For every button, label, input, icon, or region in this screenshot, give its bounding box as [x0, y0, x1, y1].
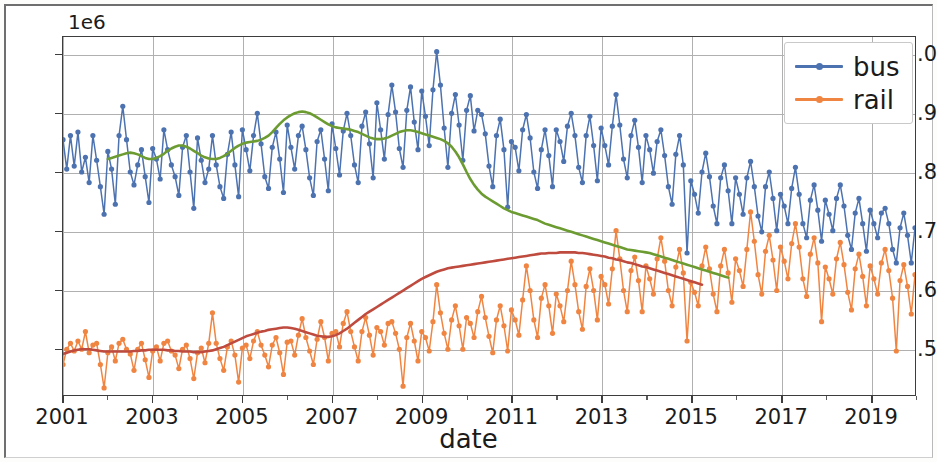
series-marker-rail [879, 260, 884, 265]
series-marker-rail [856, 252, 861, 257]
y-tick-mark [55, 231, 62, 233]
series-marker-rail [490, 350, 495, 355]
series-marker-bus [150, 146, 155, 151]
series-marker-bus [666, 184, 671, 189]
series-marker-rail [445, 347, 450, 352]
series-marker-rail [752, 239, 757, 244]
series-marker-rail [247, 356, 252, 361]
x-tick-mark [152, 396, 154, 403]
series-marker-rail [374, 325, 379, 330]
y-tick-mark [55, 54, 62, 56]
series-marker-bus [539, 147, 544, 152]
series-marker-bus [643, 133, 648, 138]
series-marker-rail [819, 319, 824, 324]
series-marker-bus [610, 124, 615, 129]
series-marker-rail [550, 331, 555, 336]
series-marker-rail [789, 241, 794, 246]
series-marker-bus [244, 147, 249, 152]
series-marker-rail [602, 282, 607, 287]
series-marker-rail [423, 335, 428, 340]
series-marker-bus [599, 125, 604, 130]
series-marker-rail [244, 343, 249, 348]
series-marker-rail [823, 264, 828, 269]
series-marker-rail [412, 338, 417, 343]
series-marker-rail [442, 331, 447, 336]
series-marker-rail [277, 350, 282, 355]
series-marker-rail [315, 337, 320, 342]
series-marker-bus [897, 225, 902, 230]
x-tick-mark [422, 396, 424, 403]
series-marker-bus [266, 186, 271, 191]
series-marker-rail [886, 268, 891, 273]
series-marker-bus [371, 175, 376, 180]
series-marker-rail [116, 341, 121, 346]
series-marker-bus [748, 159, 753, 164]
series-marker-rail [741, 284, 746, 289]
series-marker-rail [670, 303, 675, 308]
x-tick-mark [781, 396, 783, 403]
series-marker-rail [236, 380, 241, 385]
series-marker-bus [554, 127, 559, 132]
series-marker-rail [217, 356, 222, 361]
series-marker-bus [841, 203, 846, 208]
series-marker-rail [516, 333, 521, 338]
series-marker-rail [400, 384, 405, 389]
series-marker-bus [718, 175, 723, 180]
x-tick-mark [601, 396, 603, 403]
series-marker-rail [684, 338, 689, 343]
series-marker-bus [494, 133, 499, 138]
series-marker-bus [393, 110, 398, 115]
legend-swatch-bus [795, 60, 843, 74]
series-marker-rail [651, 291, 656, 296]
series-marker-bus [782, 203, 787, 208]
series-marker-bus [457, 122, 462, 127]
x-tick-mark-minor [377, 396, 378, 400]
series-marker-bus [490, 184, 495, 189]
series-marker-rail [561, 319, 566, 324]
series-marker-rail [460, 347, 465, 352]
series-marker-rail [774, 288, 779, 293]
series-marker-bus [288, 145, 293, 150]
series-marker-bus [662, 153, 667, 158]
series-marker-bus [68, 133, 73, 138]
series-marker-rail [326, 358, 331, 363]
y-tick-mark [55, 113, 62, 115]
series-marker-bus [307, 175, 312, 180]
series-marker-bus [270, 145, 275, 150]
trend-line-bus_trend [108, 112, 728, 278]
series-marker-rail [94, 341, 99, 346]
series-marker-bus [404, 108, 409, 113]
series-marker-rail [584, 284, 589, 289]
series-marker-bus [64, 166, 69, 171]
series-marker-bus [673, 152, 678, 157]
series-marker-bus [819, 239, 824, 244]
series-marker-bus [561, 159, 566, 164]
series-marker-bus [729, 221, 734, 226]
series-marker-bus [830, 228, 835, 233]
series-marker-bus [658, 127, 663, 132]
series-rail [62, 209, 916, 390]
series-marker-rail [703, 245, 708, 250]
series-marker-bus [356, 180, 361, 185]
series-marker-bus [158, 176, 163, 181]
series-marker-rail [860, 274, 865, 279]
series-marker-rail [486, 334, 491, 339]
series-marker-rail [812, 235, 817, 240]
series-marker-bus [214, 162, 219, 167]
series-marker-bus [367, 141, 372, 146]
series-marker-bus [333, 146, 338, 151]
series-marker-rail [296, 333, 301, 338]
series-marker-rail [576, 309, 581, 314]
series-marker-bus [632, 118, 637, 123]
series-marker-rail [838, 240, 843, 245]
series-marker-bus [161, 127, 166, 132]
series-marker-bus [711, 203, 716, 208]
legend-label-bus: bus [853, 54, 900, 80]
series-marker-bus [352, 162, 357, 167]
series-marker-bus [236, 194, 241, 199]
series-marker-rail [871, 276, 876, 281]
series-marker-bus [621, 156, 626, 161]
series-marker-rail [494, 317, 499, 322]
series-marker-bus [292, 166, 297, 171]
series-marker-bus [677, 133, 682, 138]
